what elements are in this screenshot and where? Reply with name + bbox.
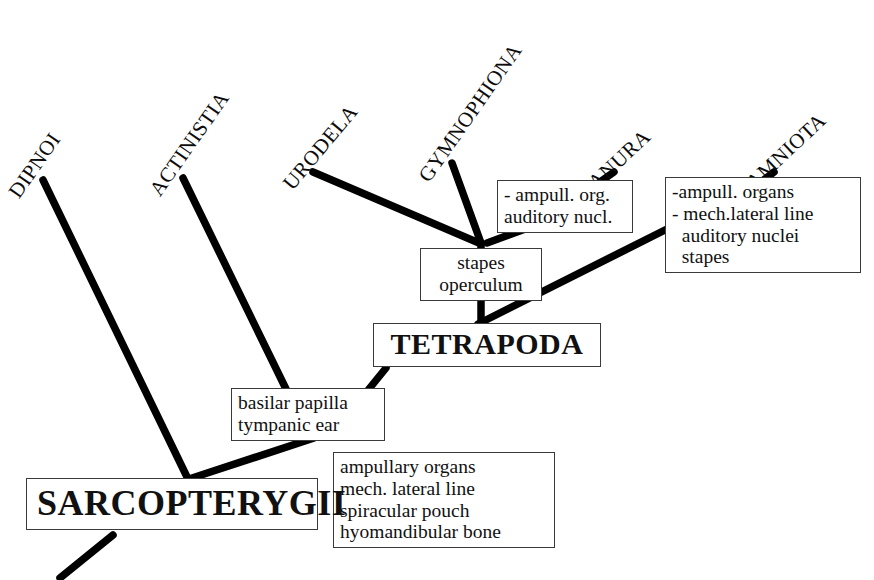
character-box-lissamphibia: stapes operculum (420, 248, 542, 301)
branch-dipnoi (43, 180, 188, 479)
clade-name: TETRAPODA (384, 327, 590, 361)
branch-urodela (313, 172, 479, 243)
character-line: auditory nucl. (504, 206, 626, 228)
character-line: hyomandibular bone (340, 521, 548, 543)
branch-actinistia-upper (183, 178, 286, 389)
character-line: -ampull. organs (672, 181, 854, 203)
branch-actinistia-lower (189, 438, 314, 479)
character-line: basilar papilla (238, 392, 378, 414)
character-line: auditory nuclei (672, 225, 854, 247)
character-line: spiracular pouch (340, 500, 548, 522)
clade-label-sarcopterygii: SARCOPTERYGII (26, 478, 318, 530)
character-line: stapes (427, 252, 535, 274)
character-line: operculum (427, 274, 535, 296)
character-line: ampullary organs (340, 456, 548, 478)
clade-name: SARCOPTERYGII (37, 483, 307, 523)
character-line: tympanic ear (238, 414, 378, 436)
character-box-anura: - ampull. org. auditory nucl. (497, 180, 633, 233)
character-box-tetrapod-stem: basilar papilla tympanic ear (231, 388, 385, 441)
character-line: mech. lateral line (340, 478, 548, 500)
character-box-sarcopterygii: ampullary organs mech. lateral line spir… (333, 452, 555, 548)
character-box-amniota: -ampull. organs - mech.lateral line audi… (665, 177, 861, 273)
character-line: - mech.lateral line (672, 203, 854, 225)
clade-label-tetrapoda: TETRAPODA (373, 323, 601, 367)
character-line: - ampull. org. (504, 184, 626, 206)
branch-root (60, 535, 113, 578)
cladogram-figure: DIPNOI ACTINISTIA URODELA GYMNOPHIONA AN… (0, 0, 874, 580)
character-line: stapes (672, 246, 854, 268)
